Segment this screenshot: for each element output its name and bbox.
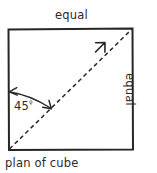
right-side-equal-label: equal (124, 73, 136, 106)
diagonal-dashed-line (10, 30, 132, 150)
diagonal-arrowhead-icon (96, 43, 106, 53)
plan-of-cube-diagram: equal equal 45º plan of cube (0, 0, 157, 173)
degree-symbol-icon: º (29, 99, 33, 108)
angle-value: 45 (14, 99, 29, 113)
top-side-equal-label: equal (55, 10, 88, 22)
angle-arc-left-arrowhead-icon (9, 88, 17, 96)
angle-measure-label: 45º (14, 100, 33, 113)
diagram-caption: plan of cube (5, 158, 79, 170)
